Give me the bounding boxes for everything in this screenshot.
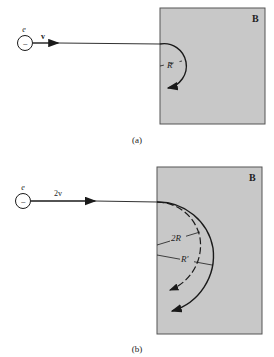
field-label-b: B <box>249 172 256 183</box>
figure-a: B − e v R (a) <box>18 8 266 145</box>
radius-label-2r-b: 2R <box>171 233 182 243</box>
radius-label-rprime-b: R′ <box>180 254 189 264</box>
electron-label-b: e <box>21 183 25 192</box>
velocity-label-a: v <box>41 32 45 41</box>
caption-b: (b) <box>132 344 143 354</box>
field-label-a: B <box>252 13 259 24</box>
caption-a: (a) <box>132 135 142 145</box>
radius-label-a: R <box>166 60 173 70</box>
trajectory-line-a <box>58 43 160 44</box>
magnetic-field-region-a <box>160 8 265 124</box>
electron-sign-b: − <box>20 197 25 207</box>
electron-sign-a: − <box>22 39 27 49</box>
velocity-label-b: 2v <box>54 189 62 198</box>
trajectory-line-b <box>95 201 157 202</box>
figure-b: B − e 2v 2R R′ (b) <box>16 167 263 354</box>
electron-label-a: e <box>22 25 26 34</box>
magnetic-field-region-b <box>157 167 262 334</box>
magnetic-deflection-diagram: B − e v R (a) B − e 2v 2R R′ (b) <box>0 0 274 357</box>
